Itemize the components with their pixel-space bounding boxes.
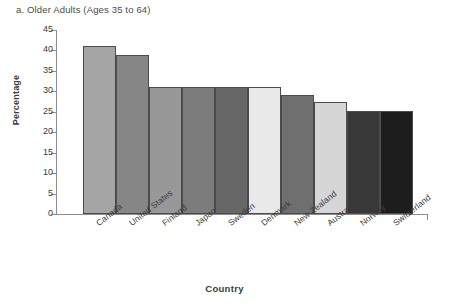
x-axis-end-tick bbox=[427, 214, 428, 220]
bar bbox=[281, 95, 314, 214]
bar bbox=[215, 87, 248, 214]
bar bbox=[182, 87, 215, 214]
y-tick-label: 30 bbox=[43, 85, 53, 95]
y-tick-label: 10 bbox=[43, 167, 53, 177]
bar bbox=[116, 55, 149, 214]
bar bbox=[248, 87, 281, 214]
y-tick-label: 25 bbox=[43, 106, 53, 116]
y-tick-label: 0 bbox=[48, 208, 53, 218]
y-tick-label: 5 bbox=[48, 188, 53, 198]
y-axis-title: Percentage bbox=[11, 60, 21, 140]
bar bbox=[380, 111, 413, 214]
y-axis-line bbox=[56, 30, 57, 215]
y-tick-label: 20 bbox=[43, 126, 53, 136]
y-tick-label: 40 bbox=[43, 44, 53, 54]
plot-area: 051015202530354045 bbox=[56, 30, 428, 215]
y-tick-label: 15 bbox=[43, 147, 53, 157]
y-tick-label: 35 bbox=[43, 65, 53, 75]
chart-title: a. Older Adults (Ages 35 to 64) bbox=[16, 4, 151, 15]
bar bbox=[83, 46, 116, 214]
chart-figure: a. Older Adults (Ages 35 to 64) Percenta… bbox=[0, 0, 449, 305]
y-tick-label: 45 bbox=[43, 24, 53, 34]
x-axis-title: Country bbox=[0, 283, 449, 294]
